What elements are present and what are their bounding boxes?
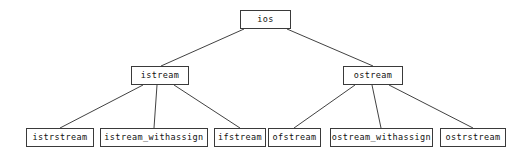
- node-ostream: ostream: [343, 66, 403, 85]
- node-label-ostream: ostream: [354, 71, 393, 80]
- node-label-ofstream: ofstream: [272, 133, 316, 142]
- node-ifstream: ifstream: [214, 128, 266, 147]
- node-ofstream: ofstream: [268, 128, 321, 147]
- edge-ios-to-istream: [161, 29, 244, 66]
- node-istrstream: istrstream: [26, 128, 94, 147]
- node-label-ostream_withassign: ostream_withassign: [332, 133, 431, 142]
- node-label-ostrstream: ostrstream: [445, 133, 500, 142]
- node-istream: istream: [131, 66, 189, 85]
- node-label-ios: ios: [257, 15, 274, 24]
- node-label-istream_withassign: istream_withassign: [104, 133, 203, 142]
- edge-istream-to-istrstream: [60, 85, 143, 128]
- node-ostrstream: ostrstream: [440, 128, 506, 147]
- node-label-istream: istream: [141, 71, 180, 80]
- edge-ostream-to-ostream_withassign: [372, 85, 381, 128]
- node-label-ifstream: ifstream: [218, 133, 262, 142]
- node-istream_withassign: istream_withassign: [100, 128, 208, 147]
- edge-istream-to-ifstream: [174, 85, 240, 128]
- edge-ostream-to-ofstream: [294, 85, 355, 128]
- class-hierarchy-diagram: iosistreamostreamistrstreamistream_witha…: [0, 0, 528, 152]
- edge-istream-to-istream_withassign: [154, 85, 157, 128]
- node-ostream_withassign: ostream_withassign: [330, 128, 433, 147]
- node-ios: ios: [240, 10, 291, 29]
- node-label-istrstream: istrstream: [32, 133, 87, 142]
- edge-ostream-to-ostrstream: [389, 85, 473, 128]
- edge-ios-to-ostream: [287, 29, 373, 66]
